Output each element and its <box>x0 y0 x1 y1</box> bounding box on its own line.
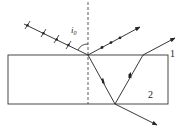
refracted-ray <box>88 55 115 104</box>
transmitted-bottom-ray <box>115 104 157 125</box>
ray-1-label: 1 <box>170 48 175 59</box>
angle-arc <box>78 44 88 50</box>
brewster-diagram: i0 1 2 <box>0 0 185 138</box>
internal-reflected-ray <box>115 55 143 104</box>
angle-label: i0 <box>71 25 77 36</box>
reflected-ray <box>88 27 140 55</box>
ray-2-label: 2 <box>148 89 153 100</box>
